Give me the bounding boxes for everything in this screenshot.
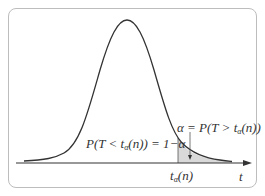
right-area-label: α = P(T > tα(n)) (177, 121, 261, 136)
tail-shade (178, 138, 232, 163)
quantile-label: tα(n) (170, 169, 193, 184)
distribution-plot (0, 0, 265, 196)
left-area-label: P(T < tα(n)) = 1−α (86, 137, 185, 152)
x-axis-arrow-icon (243, 160, 252, 166)
axis-label-t: t (239, 170, 243, 183)
